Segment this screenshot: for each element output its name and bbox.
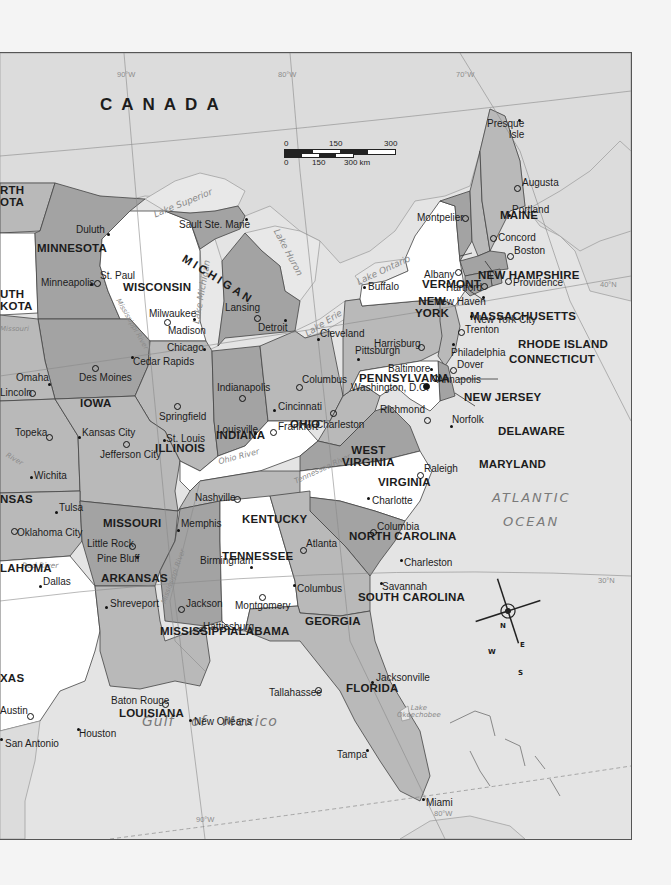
capital-marker	[424, 417, 431, 424]
city-label-shreveport[interactable]: Shreveport	[110, 599, 159, 609]
city-marker	[199, 629, 202, 632]
city-label-lansing[interactable]: Lansing	[225, 303, 260, 313]
city-label-charleston-sc[interactable]: Charleston	[404, 558, 452, 568]
city-label-baton-rouge[interactable]: Baton Rouge	[111, 696, 169, 706]
city-label-duluth[interactable]: Duluth	[76, 225, 105, 235]
city-label-omaha[interactable]: Omaha	[16, 373, 49, 383]
city-label-charleston-wv[interactable]: Charleston	[316, 420, 364, 430]
city-label-columbus-oh[interactable]: Columbus	[302, 375, 347, 385]
city-label-memphis[interactable]: Memphis	[181, 519, 222, 529]
city-label-new-haven[interactable]: New Haven	[434, 297, 486, 307]
city-label-pittsburgh[interactable]: Pittsburgh	[355, 346, 400, 356]
city-label-milwaukee[interactable]: Milwaukee	[149, 309, 196, 319]
city-label-cedar-rapids[interactable]: Cedar Rapids	[133, 357, 194, 367]
city-marker	[430, 368, 433, 371]
city-label-new-orleans[interactable]: New Orleans	[194, 717, 252, 727]
city-label-san-antonio[interactable]: San Antonio	[5, 739, 59, 749]
city-label-providence[interactable]: Providence	[513, 278, 563, 288]
city-label-trenton[interactable]: Trenton	[465, 325, 499, 335]
city-label-atlanta[interactable]: Atlanta	[306, 539, 337, 549]
city-label-annapolis[interactable]: Annapolis	[437, 375, 481, 385]
city-label-hartford[interactable]: Hartford	[446, 283, 482, 293]
city-label-dover[interactable]: Dover	[457, 360, 484, 370]
city-label-austin[interactable]: Austin	[0, 706, 28, 716]
city-label-louisville[interactable]: Louisville	[217, 425, 258, 435]
state-label-north-carolina: NORTH CAROLINA	[349, 531, 457, 543]
city-label-detroit[interactable]: Detroit	[258, 323, 287, 333]
city-label-charlotte[interactable]: Charlotte	[372, 496, 413, 506]
city-label-portland[interactable]: Portland	[512, 205, 549, 215]
scale-mi-0: 0	[284, 139, 288, 148]
city-label-columbia[interactable]: Columbia	[377, 522, 419, 532]
city-label-jefferson-city[interactable]: Jefferson City	[100, 450, 161, 460]
city-label-presque-isle[interactable]: Presque Isle	[487, 119, 524, 140]
city-label-madison[interactable]: Madison	[168, 326, 206, 336]
city-label-topeka[interactable]: Topeka	[15, 428, 47, 438]
city-label-richmond[interactable]: Richmond	[380, 405, 425, 415]
city-label-savannah[interactable]: Savannah	[382, 582, 427, 592]
city-marker	[30, 476, 33, 479]
city-label-houston[interactable]: Houston	[79, 729, 116, 739]
city-label-sault-ste-marie[interactable]: Sault Ste. Marie	[179, 220, 250, 230]
city-label-miami[interactable]: Miami	[426, 798, 453, 808]
city-label-cleveland[interactable]: Cleveland	[320, 329, 364, 339]
ocean-label-ocean: OCEAN	[503, 515, 559, 528]
scale-km-300: 300 km	[344, 158, 370, 167]
city-label-lincoln[interactable]: Lincoln	[0, 388, 32, 398]
city-label-washington-dc[interactable]: Washington, D.C.	[351, 383, 429, 393]
city-label-st-paul[interactable]: St. Paul	[100, 271, 135, 281]
city-label-albany[interactable]: Albany	[424, 270, 455, 280]
city-marker	[450, 425, 453, 428]
city-marker	[189, 719, 192, 722]
city-label-springfield[interactable]: Springfield	[159, 412, 206, 422]
grid-label-80w-bottom: 80°W	[434, 810, 452, 818]
capital-marker	[174, 403, 181, 410]
state-label-wisconsin: WISCONSIN	[123, 282, 191, 294]
capital-marker	[514, 185, 521, 192]
city-label-augusta[interactable]: Augusta	[522, 178, 559, 188]
city-label-tallahassee[interactable]: Tallahassee	[269, 688, 322, 698]
city-label-raleigh[interactable]: Raleigh	[424, 464, 458, 474]
state-label-west-virginia: WEST VIRGINIA	[342, 444, 395, 468]
city-label-tampa[interactable]: Tampa	[337, 750, 367, 760]
grid-label-80w: 80°W	[278, 71, 296, 79]
city-label-columbus-ga[interactable]: Columbus	[297, 584, 342, 594]
city-label-baltimore[interactable]: Baltimore	[388, 364, 430, 374]
map-frame: 0 150 300 mi 0 150 300 km 90°W 80°W 70°W…	[0, 52, 632, 840]
city-label-oklahoma-city[interactable]: Oklahoma City	[17, 528, 83, 538]
city-label-st-louis[interactable]: St. Louis	[166, 434, 205, 444]
city-label-boston[interactable]: Boston	[514, 246, 545, 256]
city-label-buffalo[interactable]: Buffalo	[368, 282, 399, 292]
state-label-illinois: ILLINOIS	[155, 443, 205, 455]
city-label-tulsa[interactable]: Tulsa	[59, 503, 83, 513]
city-label-wichita[interactable]: Wichita	[34, 471, 67, 481]
city-label-little-rock[interactable]: Little Rock	[87, 539, 134, 549]
city-label-jacksonville[interactable]: Jacksonville	[376, 673, 430, 683]
city-label-jackson[interactable]: Jackson	[186, 599, 223, 609]
capital-marker	[239, 395, 246, 402]
city-marker	[422, 798, 425, 801]
city-label-concord[interactable]: Concord	[498, 233, 536, 243]
city-label-birmingham[interactable]: Birmingham	[200, 556, 253, 566]
city-label-chicago[interactable]: Chicago	[167, 343, 204, 353]
grid-label-40n: 40°N	[600, 281, 617, 289]
city-label-minneapolis[interactable]: Minneapolis	[41, 278, 94, 288]
state-label-georgia: GEORGIA	[305, 616, 361, 628]
city-label-kansas-city[interactable]: Kansas City	[82, 428, 135, 438]
city-label-dallas[interactable]: Dallas	[43, 577, 71, 587]
ocean-label-atlantic: ATLANTIC	[492, 491, 571, 504]
city-label-des-moines[interactable]: Des Moines	[79, 373, 132, 383]
city-label-pine-bluff[interactable]: Pine Bluff	[97, 554, 140, 564]
state-label-south-carolina: SOUTH CAROLINA	[358, 592, 465, 604]
capital-marker	[27, 713, 34, 720]
city-label-cincinnati[interactable]: Cincinnati	[278, 402, 322, 412]
state-label-louisiana: LOUISIANA	[119, 708, 184, 720]
city-label-hattiesburg[interactable]: Hattiesburg	[203, 622, 254, 632]
city-label-indianapolis[interactable]: Indianapolis	[217, 383, 270, 393]
city-label-frankfort[interactable]: Frankfort	[278, 422, 318, 432]
city-label-norfolk[interactable]: Norfolk	[452, 415, 484, 425]
city-label-nashville[interactable]: Nashville	[195, 493, 236, 503]
city-label-philadelphia[interactable]: Philadelphia	[451, 348, 506, 358]
city-label-montpelier[interactable]: Montpelier	[417, 213, 464, 223]
city-label-montgomery[interactable]: Montgomery	[235, 601, 291, 611]
